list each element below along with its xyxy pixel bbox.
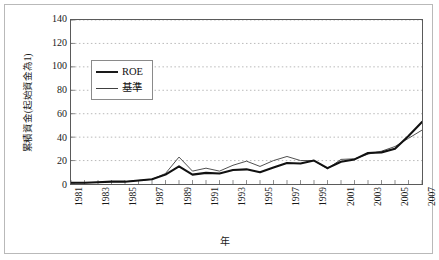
x-tick-label: 1989 bbox=[183, 187, 193, 227]
y-axis-title: 累積資金(起始資金為1) bbox=[21, 23, 35, 183]
chart-frame: 累積資金(起始資金為1) 020406080100120140 ROE 基準 1… bbox=[4, 4, 433, 254]
series-line-roe bbox=[71, 122, 422, 183]
y-tick-label: 40 bbox=[38, 133, 67, 143]
y-tick-label: 80 bbox=[38, 85, 67, 95]
x-tick-label: 1997 bbox=[291, 187, 301, 227]
x-tick-label: 2001 bbox=[346, 187, 356, 227]
legend-item-roe: ROE bbox=[96, 64, 148, 80]
x-tick-label: 2005 bbox=[400, 187, 410, 227]
y-axis-tick-labels: 020406080100120140 bbox=[38, 19, 67, 185]
x-tick-label: 2003 bbox=[373, 187, 383, 227]
series-line-benchmark bbox=[71, 130, 422, 183]
legend-label-roe: ROE bbox=[122, 66, 143, 78]
legend-line-swatch-benchmark-icon bbox=[96, 88, 118, 89]
x-axis-title: 年 bbox=[5, 233, 439, 248]
chart-legend: ROE 基準 bbox=[91, 60, 153, 100]
x-tick-label: 1983 bbox=[101, 187, 111, 227]
x-tick-label: 1999 bbox=[318, 187, 328, 227]
y-tick-label: 140 bbox=[38, 14, 67, 24]
y-tick-label: 100 bbox=[38, 61, 67, 71]
x-tick-label: 1993 bbox=[237, 187, 247, 227]
legend-item-benchmark: 基準 bbox=[96, 80, 148, 96]
legend-label-benchmark: 基準 bbox=[122, 82, 142, 94]
x-tick-label: 1987 bbox=[155, 187, 165, 227]
x-tick-label: 1985 bbox=[128, 187, 138, 227]
x-tick-label: 2007 bbox=[427, 187, 437, 227]
legend-line-swatch-roe-icon bbox=[96, 71, 118, 73]
x-tick-label: 1995 bbox=[264, 187, 274, 227]
x-tick-label: 1981 bbox=[74, 187, 84, 227]
y-tick-label: 60 bbox=[38, 109, 67, 119]
chart-lines-svg bbox=[71, 20, 422, 184]
plot-area bbox=[70, 19, 423, 185]
x-axis-tick-labels: 1981198319851987198919911993199519971999… bbox=[70, 187, 423, 229]
y-tick-label: 0 bbox=[38, 180, 67, 190]
y-tick-label: 120 bbox=[38, 38, 67, 48]
x-tick-label: 1991 bbox=[210, 187, 220, 227]
y-tick-label: 20 bbox=[38, 156, 67, 166]
